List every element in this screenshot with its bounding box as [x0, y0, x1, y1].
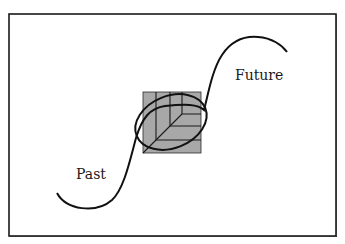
label-past: Past [76, 167, 106, 181]
diagram-canvas [0, 0, 345, 244]
label-future: Future [235, 68, 283, 82]
